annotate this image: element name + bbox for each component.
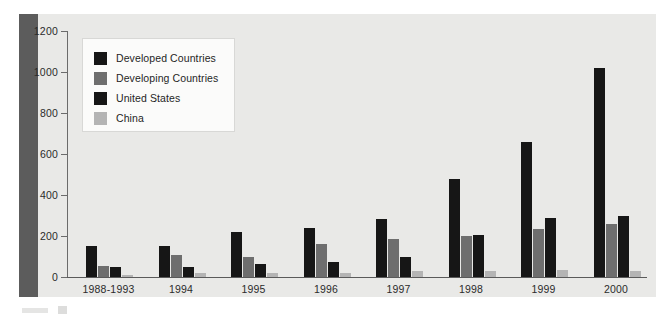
bar-developed-countries-1996	[304, 228, 315, 277]
bar-developed-countries-1995	[231, 232, 242, 277]
legend-item-developed-countries: Developed Countries	[94, 48, 234, 68]
bar-developing-countries-1998	[461, 236, 472, 277]
legend-swatch-square	[94, 92, 107, 105]
bar-united-states-1997	[400, 257, 411, 278]
x-axis-label-1988-1993: 1988-1993	[82, 283, 134, 295]
legend-item-developing-countries: Developing Countries	[94, 68, 234, 88]
legend-label: United States	[116, 92, 180, 104]
bar-china-1995	[267, 273, 278, 278]
bar-developed-countries-1997	[376, 219, 387, 277]
y-tick-label: 0	[52, 271, 58, 283]
y-tick-label: 200	[40, 230, 58, 242]
scan-artifact	[58, 306, 67, 314]
legend-item-united-states: United States	[94, 88, 234, 108]
bar-developing-countries-1994	[171, 255, 182, 277]
bar-group-1995	[231, 31, 278, 277]
legend-label: Developing Countries	[116, 72, 218, 84]
bar-developing-countries-1995	[243, 257, 254, 278]
x-axis-label-1995: 1995	[241, 283, 265, 295]
y-tick-mark	[61, 277, 67, 278]
y-tick-label: 600	[40, 148, 58, 160]
bar-developing-countries-1997	[388, 239, 399, 277]
x-axis-label-1994: 1994	[169, 283, 193, 295]
bar-developing-countries-2000	[606, 224, 617, 277]
x-axis-label-1997: 1997	[386, 283, 410, 295]
x-axis-label-1998: 1998	[459, 283, 483, 295]
bar-united-states-1995	[255, 264, 266, 277]
legend-label: Developed Countries	[116, 52, 216, 64]
bar-united-states-2000	[618, 216, 629, 278]
bar-developed-countries-1988-1993	[86, 246, 97, 277]
bar-group-1997	[376, 31, 423, 277]
bar-china-1998	[485, 271, 496, 277]
legend-label: China	[116, 112, 144, 124]
bar-united-states-1994	[183, 267, 194, 277]
bar-group-1996	[304, 31, 351, 277]
legend-item-china: China	[94, 108, 234, 128]
bar-china-1988-1993	[122, 275, 133, 277]
figure-container: 020040060080010001200 1988-1993199419951…	[0, 0, 663, 318]
bar-developed-countries-1998	[449, 179, 460, 277]
scan-artifact	[22, 308, 48, 313]
bar-developed-countries-1994	[159, 246, 170, 277]
y-tick-label: 1200	[34, 25, 58, 37]
legend-swatch-square	[94, 52, 107, 65]
left-edge-band	[19, 14, 38, 297]
bar-china-2000	[630, 271, 641, 277]
bar-united-states-1996	[328, 262, 339, 277]
legend: Developed CountriesDeveloping CountriesU…	[82, 38, 235, 132]
bar-china-1996	[340, 273, 351, 278]
bar-united-states-1999	[545, 218, 556, 277]
legend-swatch-square	[94, 72, 107, 85]
x-axis-line	[67, 277, 647, 278]
bar-developing-countries-1996	[316, 244, 327, 277]
bar-developing-countries-1988-1993	[98, 266, 109, 277]
bar-united-states-1988-1993	[110, 267, 121, 277]
bar-china-1997	[412, 271, 423, 277]
x-axis-label-2000: 2000	[604, 283, 628, 295]
bar-developed-countries-2000	[594, 68, 605, 277]
x-axis-label-1999: 1999	[531, 283, 555, 295]
bar-group-1999	[521, 31, 568, 277]
y-tick-label: 400	[40, 189, 58, 201]
y-tick-label: 1000	[34, 66, 58, 78]
bar-china-1994	[195, 273, 206, 278]
legend-swatch-square	[94, 112, 107, 125]
y-tick-label: 800	[40, 107, 58, 119]
bar-developing-countries-1999	[533, 229, 544, 277]
bar-group-2000	[594, 31, 641, 277]
chart-panel: 020040060080010001200 1988-1993199419951…	[19, 14, 656, 297]
bar-group-1998	[449, 31, 496, 277]
bar-china-1999	[557, 270, 568, 277]
bar-united-states-1998	[473, 235, 484, 277]
bar-developed-countries-1999	[521, 142, 532, 277]
x-axis-label-1996: 1996	[314, 283, 338, 295]
